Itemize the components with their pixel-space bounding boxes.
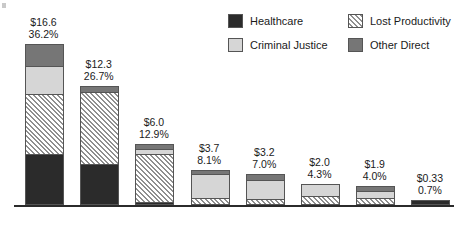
- bar-stack[interactable]: [301, 184, 340, 205]
- bar-segment[interactable]: [192, 198, 229, 204]
- bar-percent: 36.2%: [11, 28, 76, 40]
- bar-value-label: $6.012.9%: [121, 116, 186, 140]
- bar-value-label: $0.330.7%: [397, 172, 462, 196]
- bar-segment[interactable]: [192, 174, 229, 198]
- bar-value-label: $12.326.7%: [66, 58, 131, 82]
- bar-segment[interactable]: [81, 164, 118, 204]
- bar-segment[interactable]: [247, 199, 284, 204]
- bar-segment[interactable]: [26, 66, 63, 94]
- bar-segment[interactable]: [357, 191, 394, 198]
- bar-total-amount: $6.0: [121, 116, 186, 128]
- bar-segment[interactable]: [136, 202, 173, 205]
- bar-segment[interactable]: [302, 185, 339, 196]
- bar-total-amount: $16.6: [11, 16, 76, 28]
- bar-stack[interactable]: [25, 44, 64, 205]
- bar-total-amount: $1.9: [342, 158, 407, 170]
- bar-segment[interactable]: [357, 198, 394, 204]
- bar-stack[interactable]: [135, 144, 174, 205]
- bar-segment[interactable]: [26, 154, 63, 204]
- plot-area: $16.636.2%Alcohol$12.326.7%Tobacco$6.012…: [0, 0, 462, 242]
- bar-value-label: $16.636.2%: [11, 16, 76, 40]
- bar-stack[interactable]: [356, 186, 395, 205]
- bar-segment[interactable]: [26, 94, 63, 154]
- bar-segment[interactable]: [81, 92, 118, 165]
- bar-percent: 12.9%: [121, 128, 186, 140]
- bar-segment[interactable]: [302, 196, 339, 204]
- bar-percent: 26.7%: [66, 70, 131, 82]
- bar-segment[interactable]: [26, 45, 63, 66]
- bar-segment[interactable]: [412, 201, 449, 204]
- bar-total-amount: $0.33: [397, 172, 462, 184]
- bar-segment[interactable]: [247, 180, 284, 199]
- bar-stack[interactable]: [411, 200, 450, 205]
- bar-stack[interactable]: [80, 86, 119, 205]
- bar-stack[interactable]: [246, 174, 285, 205]
- x-axis-baseline: [14, 205, 454, 207]
- bar-stack[interactable]: [191, 170, 230, 205]
- stacked-bar-chart: Healthcare Lost Productivity Criminal Ju…: [0, 0, 462, 242]
- bar-percent: 0.7%: [397, 184, 462, 196]
- bar-total-amount: $12.3: [66, 58, 131, 70]
- bar-segment[interactable]: [136, 154, 173, 202]
